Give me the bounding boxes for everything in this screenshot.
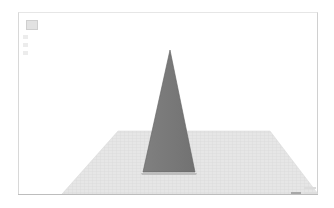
pyramid-object[interactable] — [143, 50, 195, 172]
tool-icon[interactable] — [23, 43, 28, 47]
status-unit — [304, 192, 316, 194]
tool-icon[interactable] — [23, 51, 28, 55]
side-toolbar — [19, 13, 45, 113]
view-cube-icon[interactable] — [26, 20, 38, 30]
status-bar — [291, 187, 316, 194]
pyramid-shadow — [141, 173, 197, 175]
status-line-1 — [304, 187, 316, 189]
tool-icon[interactable] — [23, 35, 28, 39]
3d-scene[interactable] — [0, 0, 334, 208]
status-value — [291, 192, 301, 194]
